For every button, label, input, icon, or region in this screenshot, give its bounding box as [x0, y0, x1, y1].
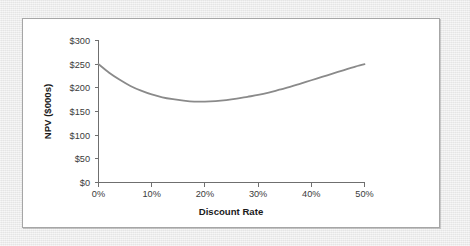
y-tick-label-200: $200 — [70, 83, 90, 93]
x-tick-label-50: 50% — [355, 189, 373, 199]
x-tick-label-30: 30% — [249, 189, 267, 199]
y-tick-label-50: $50 — [75, 154, 90, 164]
x-axis-tick-labels: 0% 10% 20% 30% 40% 50% — [92, 189, 374, 199]
x-axis-ticks — [99, 183, 365, 187]
x-tick-label-20: 20% — [196, 189, 214, 199]
x-tick-label-10: 10% — [143, 189, 161, 199]
y-tick-label-100: $100 — [70, 131, 90, 141]
x-tick-label-0: 0% — [92, 189, 105, 199]
y-axis-ticks — [95, 41, 99, 183]
y-tick-label-0: $0 — [80, 178, 90, 188]
npv-curve — [99, 64, 365, 101]
x-tick-label-40: 40% — [302, 189, 320, 199]
y-tick-label-300: $300 — [70, 36, 90, 46]
x-axis-title: Discount Rate — [199, 206, 264, 217]
y-tick-label-250: $250 — [70, 60, 90, 70]
y-axis-title: NPV ($000s) — [42, 84, 53, 139]
y-axis-tick-labels: $300 $250 $200 $150 $100 $50 $0 — [70, 36, 90, 188]
npv-sensitivity-chart: $300 $250 $200 $150 $100 $50 $0 0% 10% 2… — [23, 19, 439, 227]
chart-panel: $300 $250 $200 $150 $100 $50 $0 0% 10% 2… — [22, 18, 440, 228]
y-tick-label-150: $150 — [70, 107, 90, 117]
